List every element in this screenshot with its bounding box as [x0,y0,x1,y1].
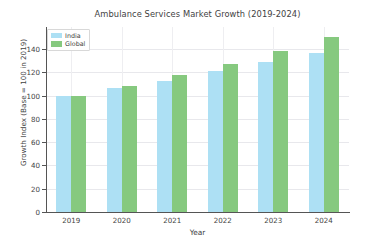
chart-title: Ambulance Services Market Growth (2019-2… [46,9,349,19]
y-tick-mark [42,119,46,120]
y-gridline [46,72,349,73]
y-tick-mark [42,96,46,97]
legend-item-india: India [51,33,85,39]
y-tick-label: 100 [26,92,40,101]
y-tick-mark [42,165,46,166]
y-tick-label: 20 [31,185,40,194]
bar-global-2024 [324,37,339,212]
legend-swatch-global [51,41,62,47]
y-tick-mark [42,189,46,190]
bar-india-2022 [208,71,223,212]
y-gridline [46,49,349,50]
y-tick-label: 0 [35,208,40,217]
bar-india-2021 [157,81,172,212]
y-tick-label: 120 [26,68,40,77]
bar-india-2020 [107,88,122,212]
y-tick-label: 60 [31,138,40,147]
bar-india-2024 [309,53,324,212]
y-gridline [46,119,349,120]
bar-global-2019 [71,96,86,212]
y-tick-label: 140 [26,45,40,54]
legend-label-india: India [65,33,81,39]
legend-swatch-india [51,33,62,39]
y-axis-line [46,27,47,213]
bar-global-2022 [223,64,238,212]
y-tick-mark [42,49,46,50]
y-tick-mark [42,142,46,143]
x-axis-line [46,212,350,213]
x-tick-label-2022: 2022 [203,216,243,225]
y-gridline [46,142,349,143]
bar-global-2020 [122,86,137,212]
y-tick-label: 40 [31,161,40,170]
chart-figure: Ambulance Services Market Growth (2019-2… [0,0,365,245]
x-tick-label-2019: 2019 [51,216,91,225]
bar-global-2021 [172,75,187,212]
y-gridline [46,165,349,166]
legend-label-global: Global [65,41,85,47]
legend-item-global: Global [51,41,85,47]
plot-area [46,27,349,212]
bar-india-2019 [56,96,71,212]
y-tick-mark [42,212,46,213]
x-axis-label: Year [46,228,349,237]
y-gridline [46,189,349,190]
y-gridline [46,96,349,97]
y-tick-label: 80 [31,115,40,124]
x-tick-label-2023: 2023 [253,216,293,225]
y-tick-mark [42,72,46,73]
bar-india-2023 [258,62,273,212]
x-tick-label-2020: 2020 [102,216,142,225]
x-tick-label-2024: 2024 [304,216,344,225]
chart-legend: India Global [47,29,90,51]
bar-global-2023 [273,51,288,212]
x-tick-label-2021: 2021 [152,216,192,225]
